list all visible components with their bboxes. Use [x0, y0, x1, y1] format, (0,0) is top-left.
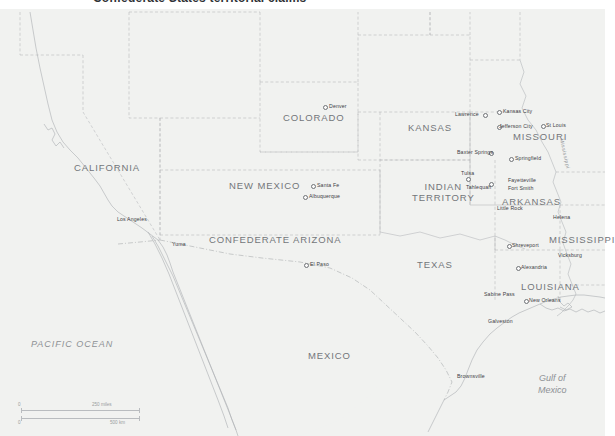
scale-tick-miles-end: [139, 408, 140, 413]
scale-bar: 0 250 miles 0 500 km: [18, 402, 153, 428]
scale-bar-miles-line: [21, 410, 139, 411]
city-dot-el-paso: [304, 263, 309, 268]
city-dot-lawrence: [483, 113, 488, 118]
city-dot-tulsa: [466, 177, 471, 182]
scale-tick-km-end: [139, 416, 140, 421]
scale-label-miles-zero: 0: [18, 402, 21, 407]
scale-bar-km-line: [21, 418, 139, 419]
city-dot-kansas-city: [497, 110, 502, 115]
city-dot-denver: [323, 105, 328, 110]
city-dot-new-orleans: [524, 299, 529, 304]
page-title-text: Confederate States territorial claims: [93, 0, 306, 5]
city-dot-albuquerque: [303, 195, 308, 200]
city-dot-jefferson-city: [497, 125, 502, 130]
city-dot-springfield: [509, 157, 514, 162]
city-dot-st-louis: [541, 124, 546, 129]
page-title-clipped: Confederate States territorial claims: [0, 0, 605, 9]
city-dot-santa-fe: [311, 184, 316, 189]
city-dot-baxter-springs: [489, 151, 494, 156]
city-dot-tahlequah: [489, 182, 494, 187]
scale-label-km-max: 500 km: [110, 420, 125, 425]
city-dot-alexandria: [516, 266, 521, 271]
scale-tick-km-start: [21, 416, 22, 421]
city-dot-shreveport: [507, 244, 512, 249]
scale-tick-miles-start: [21, 408, 22, 413]
scale-label-miles-max: 250 miles: [92, 402, 112, 407]
scale-label-km-zero: 0: [18, 420, 21, 425]
